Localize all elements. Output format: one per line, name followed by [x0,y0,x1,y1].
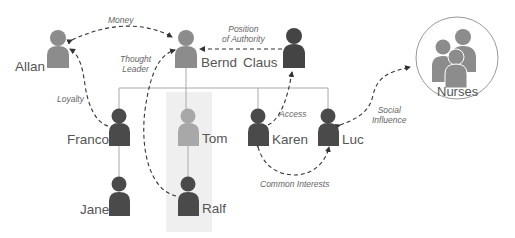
edge-label-thought-leader: Thought Leader [120,54,151,74]
influence-diagram: Allan Bernd Claus Franco Tom Karen Luc J… [0,0,515,238]
label-jane: Jane [80,202,109,217]
person-franco-icon [109,109,130,147]
edge-label-social-influence: Social Influence [372,105,407,125]
edge-label-common-interests: Common Interests [260,179,329,189]
label-luc: Luc [342,132,364,147]
label-karen: Karen [272,132,308,147]
edge-money [72,26,172,40]
label-nurses: Nurses [437,84,478,99]
label-ralf: Ralf [202,201,226,216]
edge-label-loyalty: Loyalty [57,94,84,104]
person-karen-icon [248,109,269,147]
person-luc-icon [318,109,339,147]
person-allan-icon [47,30,69,68]
edge-label-money: Money [108,15,134,25]
edge-common-interests [258,147,329,175]
org-lines [119,68,328,177]
person-jane-icon [109,177,130,217]
person-claus-icon [283,28,305,68]
label-bernd: Bernd [201,55,237,70]
label-tom: Tom [202,131,228,146]
label-franco: Franco [67,132,109,147]
person-bernd-icon [175,30,197,68]
label-allan: Allan [15,59,45,74]
edge-label-authority: Position of Authority [222,24,265,44]
edge-label-access: Access [279,109,306,119]
label-claus: Claus [243,55,278,70]
edge-loyalty [70,49,108,126]
